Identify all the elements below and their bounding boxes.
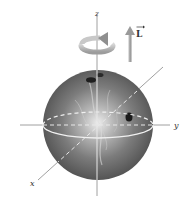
- finger-hole: [86, 77, 96, 83]
- bowling-ball-diagram: L z y x: [0, 0, 187, 207]
- x-axis-label: x: [30, 179, 35, 188]
- angular-momentum-vector: L: [125, 26, 145, 63]
- finger-hole: [97, 73, 104, 77]
- vector-label-L: L: [136, 29, 143, 39]
- bowling-ball: [43, 70, 153, 180]
- y-axis-label: y: [173, 121, 179, 130]
- z-axis-label: z: [94, 10, 99, 18]
